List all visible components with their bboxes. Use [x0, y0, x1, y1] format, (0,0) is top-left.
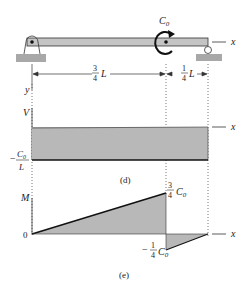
- svg-text:C0: C0: [176, 186, 187, 199]
- shear-axis-label: V: [23, 107, 31, 118]
- svg-text:L: L: [100, 68, 107, 79]
- moment-peak-label: 3 4 C0: [167, 181, 187, 200]
- svg-text:4: 4: [168, 191, 172, 200]
- svg-text:3: 3: [93, 64, 97, 73]
- svg-text:4: 4: [93, 74, 97, 83]
- svg-text:4: 4: [182, 74, 186, 83]
- moment-label: C0: [159, 15, 170, 28]
- dim-left-label: 3 4 L: [92, 64, 107, 83]
- moment-zero-label: 0: [23, 230, 28, 240]
- moment-neg-label: − 1 4 C0: [142, 241, 169, 260]
- moment-diagram: [32, 193, 226, 250]
- shear-caption: (d): [120, 175, 131, 185]
- svg-text:C0: C0: [17, 149, 26, 160]
- y-axis-label: y: [24, 84, 30, 95]
- moment-axis-label: M: [20, 192, 30, 203]
- beam-x-label: x: [230, 36, 236, 47]
- svg-text:−: −: [142, 244, 148, 255]
- svg-text:−: −: [10, 153, 16, 164]
- beam: [27, 38, 226, 46]
- shear-x-label: x: [230, 121, 236, 132]
- shear-value-label: − C0 L: [10, 149, 29, 172]
- moment-x-label: x: [230, 228, 236, 239]
- dimension-line: [32, 64, 207, 90]
- svg-text:L: L: [18, 162, 24, 172]
- svg-text:3: 3: [168, 181, 172, 190]
- svg-text:4: 4: [151, 251, 155, 260]
- svg-text:1: 1: [182, 64, 186, 73]
- beam-diagram: x C0 3 4 L 1 4 L: [0, 0, 248, 294]
- moment-caption: (e): [119, 270, 129, 280]
- svg-text:1: 1: [151, 241, 155, 250]
- roller-support-icon: [196, 47, 222, 62]
- svg-text:L: L: [188, 68, 195, 79]
- dim-right-label: 1 4 L: [181, 64, 195, 83]
- shear-diagram: [32, 108, 226, 160]
